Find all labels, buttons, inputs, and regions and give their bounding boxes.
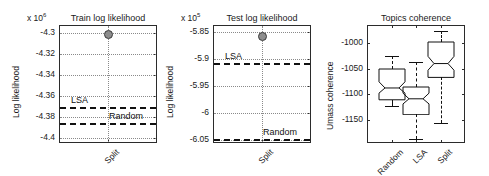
y-tick-label: -5.95 (171, 80, 209, 90)
boxplot-whisker-lower (416, 114, 417, 139)
x-tick-mark (441, 25, 442, 28)
x-tick-mark (416, 140, 417, 143)
y-axis-exponent-label: x 105 (181, 13, 200, 23)
y-tick-label: -4.4 (17, 132, 55, 142)
y-tick-label: -1100 (325, 88, 363, 98)
x-tick-mark (392, 140, 393, 143)
y-tick-mark (462, 43, 465, 44)
panel-title: Topics coherence (367, 13, 465, 23)
panel-title: Test log likelihood (213, 13, 311, 23)
y-tick-label: -1000 (325, 37, 363, 47)
boxplot-whisker-cap-upper (409, 62, 423, 63)
y-tick-mark (367, 120, 370, 121)
y-tick-label: -4.36 (17, 90, 55, 100)
x-tick-label: Split (86, 147, 121, 176)
y-tick-label: -4.34 (17, 69, 55, 79)
reference-line-random (214, 139, 310, 141)
panel-title: Train log likelihood (59, 13, 157, 23)
y-axis-exponent-label: x 106 (27, 13, 46, 23)
boxplot-whisker-cap-upper (434, 31, 448, 32)
y-tick-mark (462, 69, 465, 70)
y-tick-mark (367, 69, 370, 70)
y-tick-mark (462, 120, 465, 121)
boxplot-box-lsa (402, 86, 430, 116)
y-tick-label: -4.3 (17, 27, 55, 37)
x-tick-mark (416, 25, 417, 28)
reference-line-lsa (60, 107, 156, 109)
x-tick-mark (441, 140, 442, 143)
y-tick-label: -1150 (325, 114, 363, 124)
y-tick-label: -6.05 (171, 134, 209, 144)
x-tick-label: Split (240, 147, 275, 176)
y-tick-label: -6 (171, 107, 209, 117)
data-point-marker (258, 32, 267, 41)
reference-line-label-random: Random (109, 111, 143, 121)
y-tick-label: -4.38 (17, 111, 55, 121)
y-tick-label: -5.85 (171, 26, 209, 36)
boxplot-box-split (427, 41, 455, 78)
boxplot-whisker-cap-lower (409, 139, 423, 140)
y-tick-mark (367, 94, 370, 95)
reference-line-label-lsa: LSA (225, 51, 242, 61)
boxplot-whisker-lower (441, 77, 442, 123)
x-tick-mark (392, 25, 393, 28)
reference-line-random (60, 123, 156, 125)
boxplot-whisker-cap-upper (385, 56, 399, 57)
y-tick-label: -5.9 (171, 53, 209, 63)
y-tick-label: -1050 (325, 63, 363, 73)
reference-line-lsa (214, 63, 310, 65)
data-point-marker (104, 30, 113, 39)
boxplot-whisker-upper (416, 62, 417, 86)
y-tick-mark (462, 94, 465, 95)
y-tick-label: -4.32 (17, 48, 55, 58)
boxplot-whisker-cap-lower (385, 106, 399, 107)
y-tick-mark (367, 43, 370, 44)
reference-line-label-lsa: LSA (71, 95, 88, 105)
boxplot-whisker-cap-lower (434, 123, 448, 124)
reference-line-label-random: Random (263, 127, 297, 137)
figure-panel-group: x 106 Train log likelihood Log likelihoo… (0, 0, 489, 176)
gridline-vertical (262, 26, 263, 142)
